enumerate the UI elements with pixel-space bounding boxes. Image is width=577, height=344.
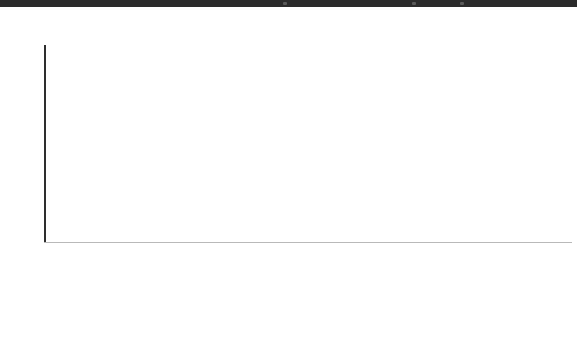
bars-container [46, 45, 570, 242]
x-axis-line [44, 242, 572, 243]
bar-chart [0, 0, 577, 344]
y-axis-ticks [0, 0, 40, 344]
x-axis-labels [46, 246, 570, 344]
